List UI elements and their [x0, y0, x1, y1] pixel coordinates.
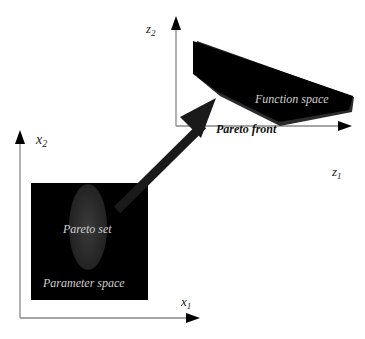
z2-axis-arrowhead-icon	[171, 16, 181, 30]
z1-axis-label: z1	[331, 164, 342, 181]
z1-axis-arrowhead-icon	[338, 121, 352, 131]
pareto-front-label: Pareto front	[216, 122, 277, 136]
x2-axis-label: x2	[35, 132, 47, 149]
mapping-arrow-icon	[117, 98, 216, 210]
function-space-label: Function space	[254, 92, 329, 106]
pareto-set-label: Pareto set	[62, 222, 112, 236]
function-space-region	[193, 41, 354, 126]
z2-axis-label: z2	[145, 21, 156, 38]
parameter-space-label: Parameter space	[42, 276, 125, 290]
x1-axis-arrowhead-icon	[186, 313, 200, 323]
x1-axis-label: x1	[180, 294, 191, 311]
x2-axis-arrowhead-icon	[15, 130, 25, 144]
pareto-diagram: z2 z1 Function space Pareto front x2 x1 …	[0, 0, 365, 339]
